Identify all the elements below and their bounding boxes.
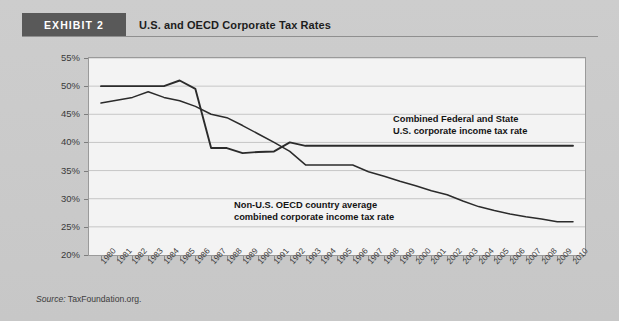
oecd-annotation-line2: combined corporate income tax rate — [234, 212, 394, 224]
line-chart — [89, 58, 585, 255]
y-axis-tick-mark — [84, 142, 88, 143]
y-axis-tick-label: 30% — [46, 193, 80, 204]
y-axis-tick-label: 20% — [46, 249, 80, 260]
y-axis-tick-label: 45% — [46, 108, 80, 119]
exhibit-title: U.S. and OECD Corporate Tax Rates — [126, 13, 598, 36]
y-axis-tick-label: 25% — [46, 221, 80, 232]
y-axis-tick-mark — [84, 58, 88, 59]
y-axis-tick-label: 35% — [46, 165, 80, 176]
source-label: Source: — [36, 294, 66, 304]
exhibit-panel: EXHIBIT 2 U.S. and OECD Corporate Tax Ra… — [0, 0, 619, 321]
source-note: Source: TaxFoundation.org. — [36, 294, 141, 304]
y-axis-tick-mark — [84, 227, 88, 228]
oecd-line-annotation: Non-U.S. OECD country average combined c… — [234, 200, 394, 223]
chart-plot-area — [88, 57, 586, 256]
header-divider — [22, 36, 598, 37]
y-axis-tick-mark — [84, 86, 88, 87]
y-axis-tick-mark — [84, 199, 88, 200]
y-axis-tick-mark — [84, 114, 88, 115]
y-axis-tick-label: 50% — [46, 80, 80, 91]
y-axis-tick-mark — [84, 255, 88, 256]
y-axis-tick-mark — [84, 171, 88, 172]
us-line-annotation: Combined Federal and State U.S. corporat… — [393, 114, 527, 137]
y-axis-tick-label: 55% — [46, 52, 80, 63]
exhibit-header: EXHIBIT 2 U.S. and OECD Corporate Tax Ra… — [22, 13, 598, 36]
us-annotation-line2: U.S. corporate income tax rate — [393, 126, 527, 138]
us-annotation-line1: Combined Federal and State — [393, 114, 527, 126]
oecd-annotation-line1: Non-U.S. OECD country average — [234, 200, 394, 212]
exhibit-badge: EXHIBIT 2 — [22, 13, 126, 36]
y-axis-tick-label: 40% — [46, 136, 80, 147]
source-text: TaxFoundation.org. — [68, 294, 142, 304]
